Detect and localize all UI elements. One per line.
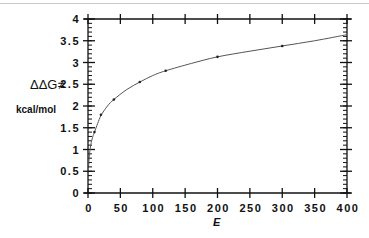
- data-point: [100, 113, 103, 116]
- x-axis-label: E: [213, 216, 221, 228]
- y-tick-label: 3: [72, 57, 80, 69]
- plot-frame: [84, 19, 351, 193]
- x-tick-label: 350: [304, 202, 327, 214]
- x-tick-label: 150: [175, 202, 198, 214]
- x-tick-labels: 050100150200250300350400: [85, 202, 359, 214]
- y-axis-label: ΔΔG≠: [30, 77, 65, 92]
- x-tick-label: 0: [85, 202, 93, 214]
- x-tick-label: 200: [207, 202, 230, 214]
- y-tick-label: 2: [72, 100, 80, 112]
- y-tick-label: 1.5: [60, 122, 80, 134]
- x-tick-label: 400: [337, 202, 360, 214]
- y-axis-unit-label: kcal/mol: [16, 104, 56, 115]
- data-point: [113, 98, 116, 101]
- y-tick-label: 0.5: [60, 165, 80, 177]
- data-point: [281, 45, 284, 48]
- x-tick-label: 300: [272, 202, 295, 214]
- y-tick-label: 1: [72, 144, 80, 156]
- series-group: [89, 35, 347, 166]
- x-tick-label: 100: [142, 202, 165, 214]
- data-point: [164, 69, 167, 72]
- y-tick-labels: 00.511.522.533.54: [60, 13, 80, 199]
- series-line-fit: [89, 35, 347, 166]
- data-point: [139, 81, 142, 84]
- y-tick-label: 0: [72, 187, 80, 199]
- chart: 00.511.522.533.54 0501001502002503003504…: [0, 0, 369, 238]
- x-tick-label: 250: [239, 202, 262, 214]
- y-axis-ticks: [83, 19, 352, 193]
- data-point: [216, 56, 219, 59]
- x-tick-label: 50: [114, 202, 129, 214]
- y-tick-label: 3.5: [60, 35, 80, 47]
- data-point: [93, 131, 96, 134]
- y-tick-label: 4: [72, 13, 80, 25]
